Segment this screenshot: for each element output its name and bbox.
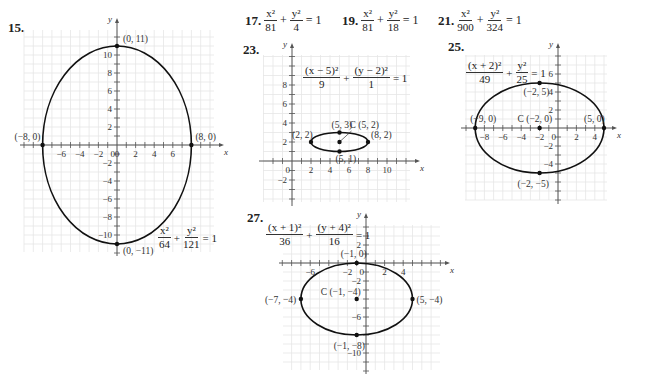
fraction: x²64 <box>158 225 171 250</box>
graph-27-equation: (x + 1)²36 + (y + 4)²16 = 1 <box>266 222 370 247</box>
equals-one: = 1 <box>531 67 545 79</box>
numerator: (x − 5)² <box>303 65 340 78</box>
numerator: (x + 2)² <box>466 60 503 73</box>
denominator: 36 <box>279 235 290 247</box>
x-axis-label: x <box>449 265 454 275</box>
denominator: 9 <box>319 78 325 90</box>
point-label: (−1, 0) <box>341 249 367 260</box>
plus-sign: + <box>174 232 180 244</box>
point-label: (−1, −8) <box>334 341 365 352</box>
point-label: C (−1, −4) <box>321 287 361 298</box>
fraction: (x + 1)²36 <box>266 222 303 247</box>
point-label: (−7, −4) <box>265 295 296 306</box>
denominator: 121 <box>183 238 200 250</box>
fraction: (y + 4)²16 <box>316 222 353 247</box>
numerator: (y + 4)² <box>316 222 353 235</box>
denominator: 64 <box>159 238 170 250</box>
numerator: x² <box>158 225 171 238</box>
graph-25-equation: (x + 2)²49 + y²25 = 1 <box>466 60 546 85</box>
equals-one: = 1 <box>356 229 370 241</box>
denominator: 49 <box>479 73 490 85</box>
graph-15-equation: x²64 + y²121 = 1 <box>158 225 217 250</box>
point-marker <box>355 333 359 337</box>
graph-23-equation: (x − 5)²9 + (y − 2)²1 = 1 <box>303 65 407 90</box>
denominator: 1 <box>368 78 374 90</box>
fraction: (x + 2)²49 <box>466 60 503 85</box>
numerator: y² <box>516 60 529 73</box>
plus-sign: + <box>306 229 312 241</box>
numerator: y² <box>185 225 198 238</box>
fraction: y²121 <box>183 225 200 250</box>
plus-sign: + <box>506 67 512 79</box>
point-marker <box>355 261 359 265</box>
point-marker <box>299 297 303 301</box>
fraction: (y − 2)²1 <box>353 65 390 90</box>
point-marker <box>410 297 414 301</box>
numerator: (x + 1)² <box>266 222 303 235</box>
point-marker <box>355 297 359 301</box>
y-axis-label: y <box>356 209 361 219</box>
denominator: 25 <box>516 73 527 85</box>
plus-sign: + <box>343 72 349 84</box>
equals-one: = 1 <box>203 232 217 244</box>
point-label: (5, −4) <box>417 295 443 306</box>
fraction: (x − 5)²9 <box>303 65 340 90</box>
y-tick-label: −6 <box>351 312 361 322</box>
fraction: y²25 <box>516 60 529 85</box>
origin-label: 0 <box>360 267 365 277</box>
graph-27: xy−6−224−10−6−220(−1, 0)(−1, −8)(−7, −4)… <box>0 0 647 383</box>
x-tick-label: 4 <box>401 267 406 277</box>
denominator: 16 <box>329 235 340 247</box>
numerator: (y − 2)² <box>353 65 390 78</box>
equals-one: = 1 <box>393 72 407 84</box>
y-tick-label: −2 <box>351 276 361 286</box>
